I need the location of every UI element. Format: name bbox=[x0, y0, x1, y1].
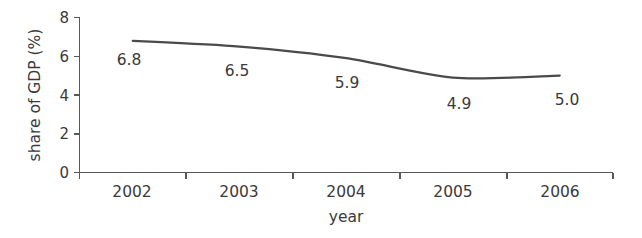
x-tick-label-2003: 2003 bbox=[219, 183, 258, 201]
y-tick-labels: 8 6 4 2 0 bbox=[59, 9, 69, 182]
x-tick-label-2006: 2006 bbox=[540, 183, 579, 201]
y-tick-label-2: 2 bbox=[59, 125, 69, 143]
y-tick-label-4: 4 bbox=[59, 87, 69, 105]
y-tick-label-8: 8 bbox=[59, 9, 69, 27]
x-tick-label-2002: 2002 bbox=[112, 183, 151, 201]
chart-canvas: 8 6 4 2 0 2002 2003 2004 2005 2006 6.8 6… bbox=[0, 0, 642, 238]
x-tick-labels: 2002 2003 2004 2005 2006 bbox=[112, 183, 579, 201]
point-label-2004: 5.9 bbox=[335, 74, 360, 92]
x-tick-label-2004: 2004 bbox=[326, 183, 365, 201]
point-label-2002: 6.8 bbox=[117, 51, 142, 69]
y-axis-title: share of GDP (%) bbox=[26, 29, 44, 162]
y-axis-ticks bbox=[74, 18, 80, 173]
x-axis-ticks bbox=[80, 173, 614, 180]
y-tick-label-0: 0 bbox=[59, 164, 69, 182]
point-value-labels: 6.8 6.5 5.9 4.9 5.0 bbox=[117, 51, 580, 113]
point-label-2003: 6.5 bbox=[225, 62, 250, 80]
point-label-2005: 4.9 bbox=[447, 95, 472, 113]
x-axis-title: year bbox=[329, 208, 364, 226]
x-tick-label-2005: 2005 bbox=[433, 183, 472, 201]
data-line-series bbox=[133, 41, 560, 79]
line-chart: 8 6 4 2 0 2002 2003 2004 2005 2006 6.8 6… bbox=[0, 0, 642, 238]
point-label-2006: 5.0 bbox=[555, 91, 580, 109]
y-tick-label-6: 6 bbox=[59, 48, 69, 66]
